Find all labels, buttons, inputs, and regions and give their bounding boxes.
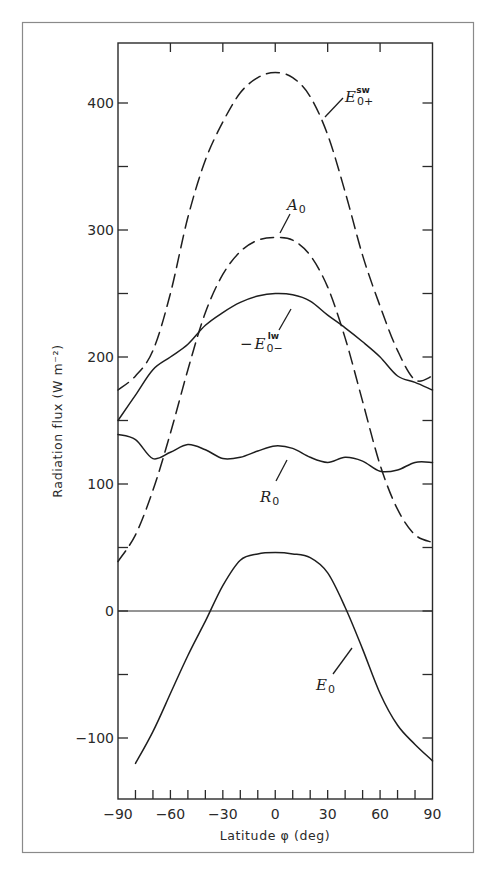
series-curve-1 [118,238,433,562]
leader-r0 [276,460,287,481]
x-tick-label: 0 [271,806,280,822]
plot-area: −90−60−300306090−1000100200300400 E0+sw … [76,43,442,822]
series-label-e0minus-lw: −E0−lw [240,331,283,355]
leader-e0minus-lw [279,309,291,330]
series-label-a0: A0 [285,196,306,216]
label-leaders [276,98,352,674]
series-curves [118,73,433,764]
plot-border [118,43,433,799]
y-tick-label: 100 [87,476,114,492]
leader-e0 [333,648,352,674]
series-label-r0: R0 [259,488,279,508]
x-tick-label: −30 [208,806,238,822]
x-axis-label: Latitude φ (deg) [220,828,331,843]
series-curve-3 [118,435,433,472]
series-label-e0plus-sw: E0+sw [344,85,373,108]
tick-labels: −90−60−300306090−1000100200300400 [76,95,442,822]
axis-ticks [118,43,433,799]
y-tick-label: 200 [87,349,114,365]
series-label-e0: E0 [315,676,335,696]
figure-frame [23,23,474,853]
y-axis-label: Radiation flux (W m⁻²) [50,344,65,497]
x-tick-label: 90 [424,806,442,822]
x-tick-label: −90 [103,806,133,822]
y-tick-label: 0 [105,603,114,619]
radiation-flux-chart: −90−60−300306090−1000100200300400 E0+sw … [0,0,485,869]
x-tick-label: 30 [319,806,337,822]
leader-e0plus-sw [325,98,343,117]
y-tick-label: 300 [87,222,114,238]
x-tick-label: −60 [156,806,186,822]
y-tick-label: 400 [87,95,114,111]
y-tick-label: −100 [76,730,114,746]
series-curve-4 [136,553,433,764]
leader-a0 [280,214,290,233]
series-labels: E0+sw A0 −E0−lw R0 E0 [240,85,373,696]
x-tick-label: 60 [371,806,389,822]
